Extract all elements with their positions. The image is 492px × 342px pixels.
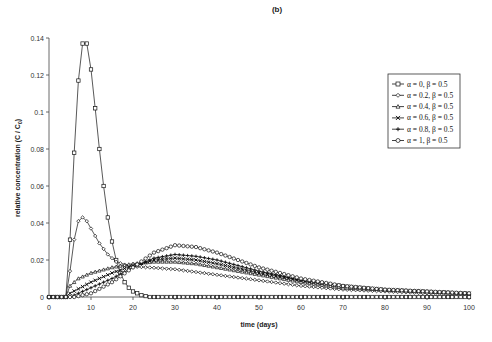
data-point	[102, 184, 105, 187]
data-point	[291, 283, 294, 286]
data-point	[173, 253, 176, 256]
y-tick-label: 0.04	[30, 220, 44, 227]
data-point	[182, 269, 185, 272]
data-point	[266, 295, 269, 298]
data-point	[392, 288, 395, 291]
data-point	[245, 261, 248, 264]
data-point	[215, 266, 218, 269]
data-point	[190, 245, 193, 248]
data-point	[383, 295, 386, 298]
data-point	[228, 255, 231, 258]
data-point	[215, 258, 218, 261]
legend-marker-circle	[396, 139, 400, 143]
x-tick-label: 60	[297, 304, 305, 311]
data-point	[169, 253, 172, 256]
data-point	[77, 79, 80, 82]
data-point	[266, 268, 269, 271]
data-point	[60, 295, 63, 298]
data-point	[316, 286, 319, 289]
data-point	[73, 238, 76, 241]
data-point	[102, 268, 105, 271]
data-point	[123, 267, 126, 270]
data-point	[110, 271, 113, 274]
data-point	[362, 286, 365, 289]
data-point	[211, 295, 214, 298]
data-point	[274, 295, 277, 298]
data-point	[98, 282, 101, 285]
legend-label: α = 0.8, β = 0.5	[407, 125, 453, 134]
data-point	[278, 271, 281, 274]
data-point	[123, 272, 126, 275]
y-tick-label: 0.1	[34, 109, 44, 116]
data-point	[127, 269, 130, 272]
data-point	[295, 295, 298, 298]
x-tick-label: 0	[47, 304, 51, 311]
data-point	[81, 42, 84, 45]
data-point	[337, 283, 340, 286]
data-point	[148, 254, 151, 257]
x-tick-label: 20	[129, 304, 137, 311]
data-point	[169, 245, 172, 248]
data-point	[236, 295, 239, 298]
data-point	[77, 294, 80, 297]
data-point	[102, 275, 105, 278]
data-point	[283, 272, 286, 275]
data-point	[371, 295, 374, 298]
data-point	[430, 295, 433, 298]
data-point	[199, 255, 202, 258]
data-point	[203, 295, 206, 298]
data-point	[194, 270, 197, 273]
data-point	[308, 295, 311, 298]
data-point	[270, 269, 273, 272]
data-point	[283, 282, 286, 285]
data-point	[245, 277, 248, 280]
data-point	[404, 289, 407, 292]
data-point	[316, 280, 319, 283]
data-point	[94, 107, 97, 110]
y-tick-label: 0.08	[30, 146, 44, 153]
data-point	[68, 295, 71, 298]
data-point	[110, 266, 113, 269]
data-point	[320, 281, 323, 284]
data-point	[224, 261, 227, 264]
data-point	[241, 276, 244, 279]
data-point	[199, 295, 202, 298]
data-point	[194, 262, 197, 265]
y-tick-label: 0.14	[30, 35, 44, 42]
data-point	[68, 292, 71, 295]
x-tick-label: 90	[423, 304, 431, 311]
data-point	[207, 249, 210, 252]
data-point	[186, 295, 189, 298]
data-point	[228, 275, 231, 278]
data-point	[341, 284, 344, 287]
data-point	[220, 274, 223, 277]
data-point	[312, 279, 315, 282]
y-tick-label: 0.02	[30, 257, 44, 264]
data-point	[165, 267, 168, 270]
data-point	[106, 267, 109, 270]
data-point	[350, 295, 353, 298]
data-point	[249, 263, 252, 266]
data-point	[262, 279, 265, 282]
data-point	[278, 295, 281, 298]
data-point	[442, 290, 445, 293]
data-point	[375, 295, 378, 298]
x-tick-label: 80	[381, 304, 389, 311]
data-point	[207, 295, 210, 298]
legend-label: α = 0, β = 0.5	[407, 80, 448, 89]
data-point	[178, 253, 181, 256]
data-point	[89, 286, 92, 289]
data-point	[434, 295, 437, 298]
data-point	[161, 267, 164, 270]
data-point	[182, 244, 185, 247]
data-point	[224, 295, 227, 298]
data-point	[152, 266, 155, 269]
data-point	[274, 281, 277, 284]
data-point	[241, 295, 244, 298]
data-point	[123, 281, 126, 284]
data-point	[98, 277, 101, 280]
data-point	[211, 258, 214, 261]
data-point	[98, 287, 101, 290]
data-point	[228, 268, 231, 271]
series-x	[47, 256, 470, 298]
